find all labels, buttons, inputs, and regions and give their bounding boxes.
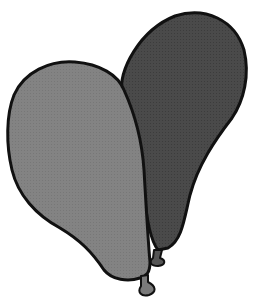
back-balloon-knot	[151, 250, 165, 266]
balloons-svg	[0, 0, 257, 297]
balloons-illustration	[0, 0, 257, 297]
front-balloon-knot	[139, 275, 154, 295]
